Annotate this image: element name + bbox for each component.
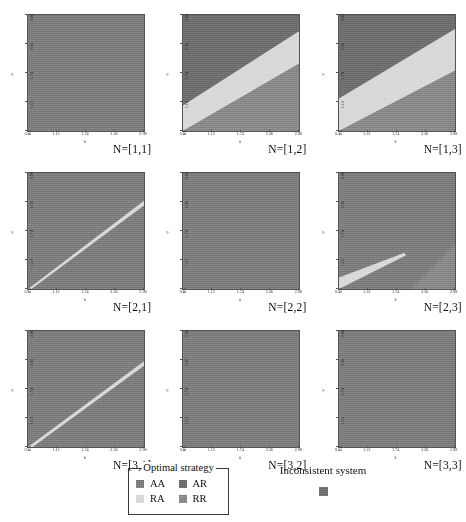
y-tickmark: [336, 72, 338, 73]
x-tick-label: 2.36: [421, 290, 428, 294]
strategy-region: [28, 173, 144, 289]
optimal-strategy-legend: Optimal strategy AAARRARR: [128, 468, 229, 515]
texture-overlay-icon: [179, 495, 187, 503]
y-axis-label: q: [9, 231, 14, 233]
legend-item-ra[interactable]: RA: [136, 493, 179, 504]
y-tickmark: [336, 359, 338, 360]
y-tickmark: [25, 259, 27, 260]
y-tick-label: 1.12: [30, 259, 34, 266]
y-tickmark: [25, 330, 27, 331]
y-axis-label: q: [164, 231, 169, 233]
y-tick-label: 0.5: [184, 288, 188, 293]
y-axis-label: q: [319, 73, 324, 75]
y-tick-label: 2.98: [341, 330, 345, 337]
y-axis-label: q: [319, 389, 324, 391]
y-tick-label: 0.5: [339, 446, 343, 451]
x-tick-label: 1.12: [363, 132, 370, 136]
x-axis-label: k: [395, 297, 397, 302]
y-tick-label: 1.74: [186, 388, 190, 395]
y-tickmark: [25, 201, 27, 202]
panel-13: N=[1,3]0.51.121.742.362.980.51.121.742.3…: [311, 0, 466, 158]
y-tickmark: [336, 259, 338, 260]
legend-label: AR: [193, 478, 208, 489]
y-tickmark: [336, 417, 338, 418]
strategy-region: [28, 15, 144, 131]
y-tick-label: 2.36: [30, 201, 34, 208]
legend-title-rule-right: [221, 468, 228, 469]
plot-area[interactable]: [338, 14, 456, 132]
y-tick-label: 0.5: [184, 130, 188, 135]
x-tick-label: 1.74: [237, 448, 244, 452]
panel-31: N=[3,1]0.51.121.742.362.980.51.121.742.3…: [0, 316, 155, 474]
legend-item-aa[interactable]: AA: [136, 478, 179, 489]
y-tickmark: [180, 359, 182, 360]
y-tick-label: 2.36: [341, 43, 345, 50]
legend-label: AA: [150, 478, 165, 489]
y-tick-label: 2.36: [30, 43, 34, 50]
y-tickmark: [180, 72, 182, 73]
figure-root: N=[1,1]0.51.121.742.362.980.51.121.742.3…: [0, 0, 466, 522]
x-tick-label: 1.74: [392, 448, 399, 452]
strategy-region-map: [28, 331, 144, 447]
x-tick-label: 2.36: [266, 448, 273, 452]
plot-area[interactable]: [27, 14, 145, 132]
y-tickmark: [180, 330, 182, 331]
y-tick-label: 2.36: [186, 43, 190, 50]
y-tickmark: [180, 172, 182, 173]
y-tick-label: 2.98: [341, 14, 345, 21]
x-tick-label: 2.98: [450, 448, 457, 452]
y-tick-label: 1.12: [186, 417, 190, 424]
y-axis-label: q: [164, 389, 169, 391]
y-tickmark: [336, 43, 338, 44]
strategy-region-map: [28, 15, 144, 131]
y-tickmark: [25, 388, 27, 389]
x-tick-label: 2.98: [450, 132, 457, 136]
panel-tag: N=[2,1]: [113, 301, 151, 313]
y-tickmark: [180, 43, 182, 44]
legend-label: RA: [150, 493, 165, 504]
plot-area[interactable]: [27, 330, 145, 448]
y-tickmark: [180, 201, 182, 202]
y-tick-label: 2.98: [186, 330, 190, 337]
strategy-region: [183, 331, 299, 447]
y-tick-label: 0.5: [28, 446, 32, 451]
x-tick-label: 2.36: [110, 132, 117, 136]
x-tick-label: 1.74: [237, 290, 244, 294]
inconsistent-system-label: Inconsistent system: [243, 464, 403, 476]
panel-33: N=[3,3]0.51.121.742.362.980.51.121.742.3…: [311, 316, 466, 474]
y-tick-label: 0.5: [339, 288, 343, 293]
y-tick-label: 1.12: [30, 417, 34, 424]
y-tick-label: 2.98: [341, 172, 345, 179]
y-tickmark: [336, 14, 338, 15]
legend-item-ar[interactable]: AR: [179, 478, 222, 489]
y-tickmark: [336, 388, 338, 389]
x-tick-label: 1.12: [208, 448, 215, 452]
plot-area[interactable]: [27, 172, 145, 290]
plot-area[interactable]: [182, 14, 300, 132]
y-tickmark: [336, 230, 338, 231]
plot-area[interactable]: [182, 172, 300, 290]
y-tick-label: 0.5: [28, 288, 32, 293]
legend-row: Optimal strategy AAARRARR Inconsistent s…: [0, 458, 466, 522]
plot-area[interactable]: [338, 330, 456, 448]
panel-12: N=[1,2]0.51.121.742.362.980.51.121.742.3…: [155, 0, 310, 158]
inconsistent-system-legend: Inconsistent system: [243, 464, 403, 496]
y-tick-label: 0.5: [339, 130, 343, 135]
legend-item-rr[interactable]: RR: [179, 493, 222, 504]
plot-area[interactable]: [338, 172, 456, 290]
panel-23: N=[2,3]0.51.121.742.362.980.51.121.742.3…: [311, 158, 466, 316]
strategy-region: [28, 331, 144, 447]
x-tick-label: 2.98: [139, 132, 146, 136]
y-axis-label: q: [319, 231, 324, 233]
strategy-region-map: [183, 173, 299, 289]
y-tick-label: 2.98: [30, 172, 34, 179]
panel-grid: N=[1,1]0.51.121.742.362.980.51.121.742.3…: [0, 0, 466, 460]
panel-32: N=[3,2]0.51.121.742.362.980.51.121.742.3…: [155, 316, 310, 474]
y-tick-label: 2.36: [341, 201, 345, 208]
y-tick-label: 1.74: [341, 388, 345, 395]
x-axis-label: k: [239, 139, 241, 144]
x-tick-label: 1.12: [52, 448, 59, 452]
plot-area[interactable]: [182, 330, 300, 448]
strategy-region-map: [339, 15, 455, 131]
y-tickmark: [336, 330, 338, 331]
